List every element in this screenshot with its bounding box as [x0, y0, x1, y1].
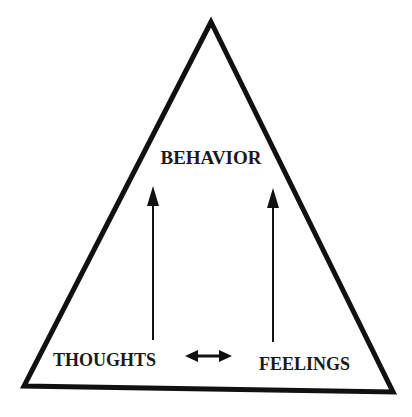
- label-behavior: BEHAVIOR: [160, 147, 261, 168]
- double-arrow-thoughts-feelings: [185, 350, 232, 362]
- arrow-thoughts-to-behavior: [147, 186, 159, 340]
- label-feelings: FEELINGS: [259, 354, 350, 374]
- triangle-outline: [24, 22, 393, 392]
- arrow-feelings-to-behavior: [267, 188, 279, 342]
- cognitive-triangle-diagram: BEHAVIOR THOUGHTS FEELINGS: [0, 0, 412, 417]
- label-thoughts: THOUGHTS: [53, 350, 156, 370]
